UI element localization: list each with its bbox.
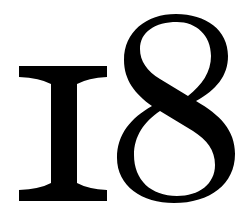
digit-one-glyph <box>19 66 107 201</box>
digit-eight-glyph <box>117 14 235 203</box>
numeral-figure: 18 <box>0 0 243 213</box>
